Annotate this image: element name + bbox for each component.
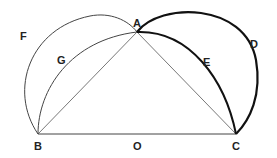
label-b: B	[34, 140, 42, 152]
label-d: D	[250, 38, 258, 50]
label-o: O	[133, 140, 142, 152]
label-f: F	[20, 30, 27, 42]
geometry-diagram: A B C O D E F G	[0, 0, 277, 158]
arc-bfa	[25, 15, 137, 134]
label-a: A	[133, 17, 141, 29]
label-e: E	[203, 56, 210, 68]
label-g: G	[57, 54, 66, 66]
label-c: C	[232, 140, 240, 152]
arc-adc	[137, 12, 258, 134]
